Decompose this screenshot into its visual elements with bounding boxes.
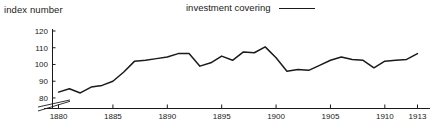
x-axis-tick-label: 1905 [322,112,340,121]
investment-covering-line-chart: index number investment covering 8090100… [0,0,437,132]
x-axis-tick-label: 1880 [50,112,68,121]
series-line-investment-covering [59,47,418,93]
x-axis-tick-label: 1890 [158,112,176,121]
x-axis-tick-group: 18801885189018951900190519101913 [50,105,427,122]
y-axis-tick-label: 120 [35,27,49,36]
x-axis-tick-label: 1913 [409,112,427,121]
y-axis-tick-label: 90 [39,77,48,86]
y-axis-tick-label: 110 [35,44,48,53]
y-axis-tick-label: 80 [39,94,48,103]
x-axis-tick-label: 1910 [376,112,394,121]
y-axis-tick-label: 100 [35,60,49,69]
plot-area: 8090100110120 18801885189018951900190519… [0,0,437,132]
x-axis-tick-label: 1885 [104,112,122,121]
x-axis-tick-label: 1900 [267,112,285,121]
x-axis-tick-label: 1895 [213,112,231,121]
